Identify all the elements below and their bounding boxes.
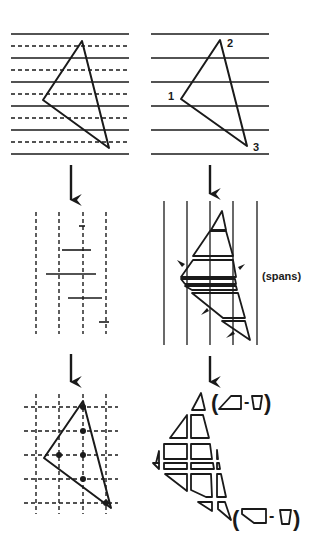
marker-arrow bbox=[201, 308, 209, 315]
marker-arrow bbox=[238, 264, 245, 270]
bottom-right-panel bbox=[153, 393, 231, 520]
dashed-columns bbox=[36, 212, 106, 334]
vertex-label-1: 1 bbox=[168, 90, 174, 102]
spans-label: (spans) bbox=[262, 270, 301, 282]
formula-bottom: ( - ) bbox=[232, 506, 300, 531]
paren-open: ( bbox=[232, 506, 240, 531]
paren-open: ( bbox=[211, 390, 219, 415]
fragment-triangle-glyph bbox=[219, 396, 241, 409]
top-left-panel bbox=[11, 34, 129, 154]
middle-right-panel bbox=[164, 201, 257, 345]
diagram-canvas: 2 1 3 bbox=[0, 0, 318, 553]
bottom-left-panel bbox=[24, 394, 118, 514]
vertex-label-3: 3 bbox=[253, 141, 259, 153]
sample-spans bbox=[46, 226, 109, 322]
marker-arrow bbox=[177, 260, 185, 267]
fragment-trapezoid-glyph bbox=[242, 509, 266, 523]
minus-sign: - bbox=[269, 507, 274, 524]
fragment-box-glyph bbox=[280, 510, 291, 524]
fragment-box-glyph bbox=[252, 396, 262, 409]
paren-close: ) bbox=[293, 506, 300, 531]
span-slabs bbox=[181, 211, 250, 340]
minus-sign: - bbox=[244, 393, 249, 410]
paren-close: ) bbox=[264, 390, 271, 415]
middle-left-panel bbox=[36, 212, 109, 334]
formula-top: ( - ) bbox=[211, 390, 271, 415]
pixel-columns bbox=[164, 201, 257, 345]
grid-dashed-horizontal bbox=[24, 407, 118, 503]
vertex-label-2: 2 bbox=[227, 37, 233, 49]
